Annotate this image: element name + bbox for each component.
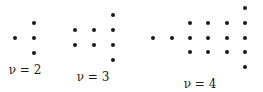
- dot-nu-3-6: [111, 43, 115, 47]
- dot-nu-2-3: [32, 51, 36, 55]
- dot-nu-4-1: [170, 36, 174, 40]
- dot-nu-4-7: [206, 50, 210, 54]
- label-nu-3: ν = 3: [77, 70, 110, 84]
- dot-nu-4-13: [243, 36, 247, 40]
- dot-nu-4-15: [243, 65, 247, 69]
- dot-nu-4-8: [225, 21, 229, 25]
- label-nu-4: ν = 4: [184, 77, 217, 91]
- dot-nu-3-3: [92, 43, 96, 47]
- dot-nu-3-0: [73, 28, 77, 32]
- dot-nu-4-9: [225, 36, 229, 40]
- dot-nu-4-4: [188, 50, 192, 54]
- label-nu-2: ν = 2: [9, 63, 42, 77]
- dot-nu-3-7: [111, 58, 115, 62]
- dot-nu-4-12: [243, 21, 247, 25]
- dot-nu-4-10: [225, 50, 229, 54]
- dot-nu-2-0: [13, 36, 17, 40]
- dot-nu-3-2: [92, 28, 96, 32]
- dot-nu-3-5: [111, 28, 115, 32]
- dot-nu-3-4: [111, 13, 115, 17]
- dot-nu-4-5: [206, 21, 210, 25]
- dot-nu-2-2: [32, 36, 36, 40]
- dot-nu-3-1: [73, 43, 77, 47]
- dot-nu-4-6: [206, 36, 210, 40]
- dot-nu-4-0: [151, 36, 155, 40]
- dot-nu-4-3: [188, 36, 192, 40]
- dot-nu-4-11: [243, 6, 247, 10]
- dot-nu-2-1: [32, 21, 36, 25]
- dot-nu-4-14: [243, 50, 247, 54]
- dot-nu-4-2: [188, 21, 192, 25]
